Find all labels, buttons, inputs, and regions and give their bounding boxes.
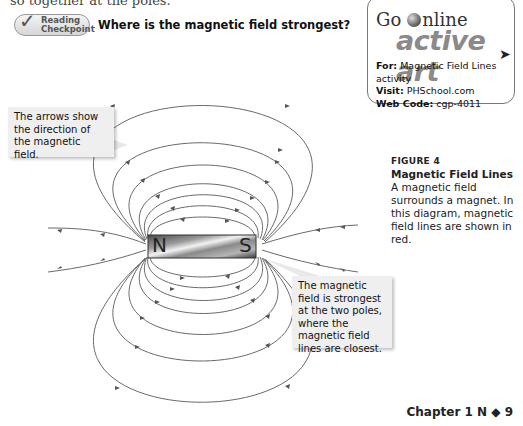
- callout-arrows-direction: The arrows show the direction of the mag…: [8, 107, 114, 157]
- figure-title: Magnetic Field Lines: [391, 168, 521, 181]
- magnet-south-label: S: [239, 233, 252, 257]
- page-footer: Chapter 1 N ◆ 9: [406, 405, 513, 419]
- callout-pointer: [262, 258, 320, 276]
- magnet-north-label: N: [152, 233, 167, 257]
- callout-strongest-field: The magnetic field is strongest at the t…: [292, 276, 392, 348]
- figure-label: FIGURE 4: [391, 155, 521, 168]
- callout-pointer: [114, 140, 128, 150]
- figure-caption: FIGURE 4 Magnetic Field Lines A magnetic…: [391, 155, 521, 246]
- figure-description: A magnetic field surrounds a magnet. In …: [391, 181, 521, 246]
